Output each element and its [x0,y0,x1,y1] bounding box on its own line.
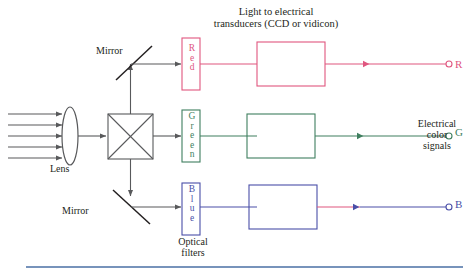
color-camera-block-diagram: Light to electricaltransducers (CCD or v… [0,0,473,276]
green-filter-letter: n [185,150,199,160]
figure-title-line1: Light to electrical [239,6,314,17]
blue-output-arrow [353,204,359,210]
blue-transducer-box [249,185,317,229]
red-filter-letter: d [185,63,199,73]
lens-label: Lens [50,163,69,174]
blue-filter-label: B l u e [185,185,199,223]
green-transducer-box [247,114,315,158]
optical-filters-line1: Optical [178,236,207,247]
green-output-arrow [357,133,363,139]
lens-element [62,107,78,165]
electrical-line3: signals [423,140,451,151]
electrical-line2: color [427,129,448,140]
beam-splitter [108,114,153,159]
red-transducer-box [257,42,325,86]
blue-filter-letter: e [185,214,199,224]
incoming-light-rays [8,114,62,158]
optical-filters-label: Opticalfilters [161,236,225,258]
blue-terminal [446,204,452,210]
electrical-line1: Electrical [418,118,456,129]
green-filter-label: G r e e n [185,112,199,160]
red-terminal [446,61,452,67]
red-filter-label: R e d [185,44,199,73]
figure-title-line2: transducers (CCD or vidicon) [214,18,339,29]
red-output-arrow [363,61,369,67]
r-output-label: R [455,58,462,70]
mirror-top-label: Mirror [96,45,123,56]
optical-filters-line2: filters [181,247,204,258]
mirror-bottom-label: Mirror [62,205,89,216]
figure-title: Light to electricaltransducers (CCD or v… [196,6,356,30]
b-output-label: B [455,198,462,210]
g-output-label: G [455,126,463,138]
